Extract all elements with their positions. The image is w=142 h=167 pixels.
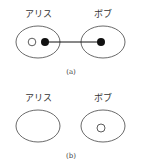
bob-open-particle [97, 124, 105, 132]
alice-label-a: アリス [25, 9, 52, 19]
alice-filled-particle [41, 38, 49, 46]
panel-b: アリス ボブ (b) [16, 92, 125, 160]
bob-filled-particle [97, 38, 105, 46]
alice-ellipse-b [16, 110, 60, 142]
alice-open-particle [28, 38, 36, 46]
bob-label-b: ボブ [94, 92, 112, 103]
diagram-canvas: アリス ボブ (a) アリス ボブ (b) [0, 0, 142, 167]
bob-label-a: ボブ [94, 8, 112, 19]
caption-b: (b) [66, 152, 76, 160]
panel-a: アリス ボブ (a) [16, 8, 125, 76]
caption-a: (a) [66, 68, 76, 76]
alice-label-b: アリス [25, 93, 52, 103]
